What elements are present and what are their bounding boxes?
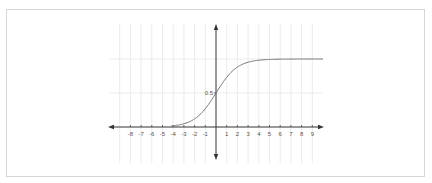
x-tick-label: -2 bbox=[192, 131, 198, 137]
axes bbox=[108, 24, 324, 160]
x-tick-label: 3 bbox=[246, 131, 250, 137]
x-tick-label: 9 bbox=[311, 131, 315, 137]
x-tick-label: -5 bbox=[160, 131, 166, 137]
sigmoid-chart: -8-7-6-5-4-3-2-1123456789 0.5 bbox=[0, 0, 432, 183]
x-tick-label: -3 bbox=[181, 131, 187, 137]
x-tick-label: 6 bbox=[279, 131, 283, 137]
y-axis-down-arrow-icon bbox=[214, 154, 218, 160]
y-tick-label: 0.5 bbox=[205, 90, 214, 96]
x-tick-label: 7 bbox=[289, 131, 293, 137]
x-axis-left-arrow-icon bbox=[108, 125, 114, 129]
x-tick-label: 2 bbox=[236, 131, 240, 137]
x-tick-label: -6 bbox=[149, 131, 155, 137]
sigmoid-curve bbox=[171, 59, 323, 126]
x-tick-label: -7 bbox=[138, 131, 144, 137]
x-tick-label: -4 bbox=[171, 131, 177, 137]
x-tick-label: 5 bbox=[268, 131, 272, 137]
x-tick-label: 1 bbox=[225, 131, 229, 137]
x-axis-right-arrow-icon bbox=[318, 125, 324, 129]
x-tick-label: -8 bbox=[128, 131, 134, 137]
x-tick-label: 4 bbox=[257, 131, 261, 137]
y-axis-up-arrow-icon bbox=[214, 24, 218, 30]
x-tick-label: -1 bbox=[203, 131, 209, 137]
x-tick-label: 8 bbox=[300, 131, 304, 137]
